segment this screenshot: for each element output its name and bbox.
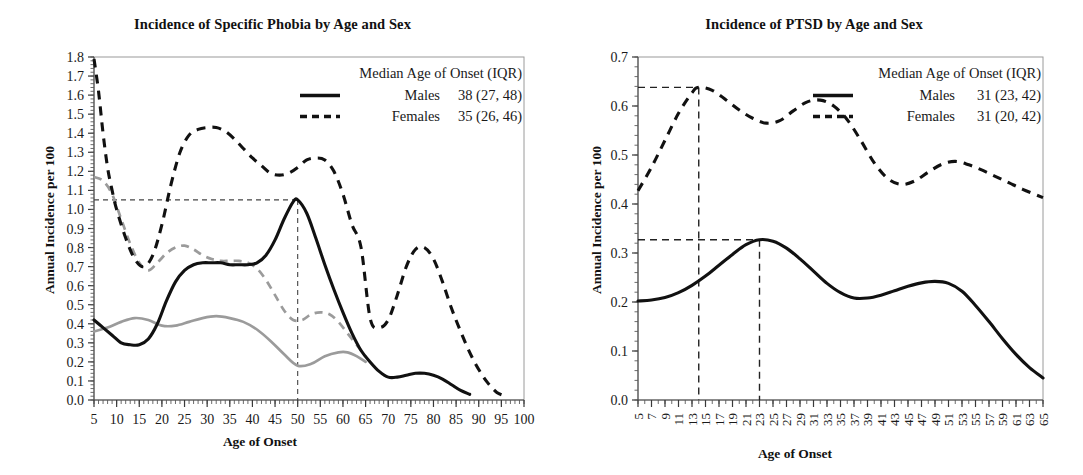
legend-label-males: Males	[920, 87, 956, 103]
x-tick-label: 50	[291, 412, 305, 427]
y-tick-label: 1.0	[67, 202, 85, 217]
y-tick-label: 1.5	[67, 107, 85, 122]
series-line-females	[94, 59, 506, 396]
legend-title: Median Age of Onset (IQR)	[878, 65, 1041, 82]
x-tick-label: 30	[200, 412, 214, 427]
y-tick-label: 0.1	[67, 374, 85, 389]
y-tick-label: 0.4	[611, 197, 629, 212]
x-tick-label: 85	[449, 412, 463, 427]
x-tick-label: 15	[132, 412, 146, 427]
y-tick-label: 0.8	[67, 241, 85, 256]
legend-value-males: 38 (27, 48)	[458, 87, 522, 104]
y-tick-label: 0.2	[611, 295, 629, 310]
y-tick-label: 1.2	[67, 164, 85, 179]
chart-panel-ptsd: Incidence of PTSD by Age and Sex Annual …	[545, 0, 1083, 475]
y-tick-label: 1.8	[67, 50, 85, 65]
y-tick-label: 0.6	[67, 279, 85, 294]
x-tick-label: 95	[494, 412, 508, 427]
y-tick-label: 1.3	[67, 145, 85, 160]
x-tick-label: 10	[110, 412, 124, 427]
x-tick-label: 25	[178, 412, 192, 427]
x-tick-group: 5101520253035404550556065707580859095100	[91, 400, 535, 427]
y-tick-label: 1.7	[67, 69, 85, 84]
y-tick-group: 0.00.10.20.30.40.50.60.70.80.91.01.11.21…	[67, 50, 95, 408]
x-tick-label: 55	[313, 412, 327, 427]
y-tick-label: 0.0	[611, 393, 629, 408]
legend-label-males: Males	[405, 87, 441, 103]
legend-value-males: 31 (23, 42)	[977, 87, 1041, 104]
y-tick-label: 0.3	[67, 336, 85, 351]
x-tick-label: 65	[1036, 413, 1051, 426]
x-tick-label: 40	[245, 412, 259, 427]
legend-value-females: 31 (20, 42)	[977, 108, 1041, 125]
y-tick-label: 0.7	[611, 50, 629, 65]
series-line-males-secondary	[94, 316, 366, 366]
x-tick-label: 100	[514, 412, 535, 427]
y-tick-label: 0.5	[67, 298, 85, 313]
y-tick-label: 0.2	[67, 355, 85, 370]
y-tick-label: 0.9	[67, 222, 85, 237]
x-tick-label: 80	[426, 412, 440, 427]
y-tick-label: 1.4	[67, 126, 85, 141]
x-tick-label: 75	[404, 412, 418, 427]
chart-panel-specific-phobia: Incidence of Specific Phobia by Age and …	[0, 0, 545, 475]
x-tick-label: 35	[223, 412, 237, 427]
chart-svg-ptsd: 0.00.10.20.30.40.50.60.75791113151719212…	[545, 0, 1083, 475]
y-tick-label: 0.5	[611, 148, 629, 163]
x-tick-label: 20	[155, 412, 169, 427]
y-tick-label: 0.0	[67, 393, 85, 408]
x-tick-label: 70	[381, 412, 395, 427]
legend-value-females: 35 (26, 46)	[458, 108, 522, 125]
y-tick-label: 0.3	[611, 246, 629, 261]
y-tick-label: 0.6	[611, 99, 629, 114]
legend-label-females: Females	[907, 108, 956, 124]
x-tick-group: 5791113151719212325272931333537394143454…	[631, 400, 1051, 426]
figure-container: Incidence of Specific Phobia by Age and …	[0, 0, 1083, 475]
reference-line-group	[638, 87, 760, 400]
x-tick-label: 90	[472, 412, 486, 427]
legend-label-females: Females	[392, 108, 441, 124]
chart-svg-specific-phobia: 0.00.10.20.30.40.50.60.70.80.91.01.11.21…	[0, 0, 545, 475]
y-tick-label: 0.1	[611, 344, 629, 359]
legend: Median Age of Onset (IQR)Males38 (27, 48…	[300, 65, 522, 125]
series-line-males	[94, 199, 470, 394]
y-tick-label: 1.6	[67, 88, 85, 103]
y-tick-group: 0.00.10.20.30.40.50.60.7	[611, 50, 639, 408]
x-tick-label: 65	[359, 412, 373, 427]
legend-title: Median Age of Onset (IQR)	[359, 65, 522, 82]
y-tick-label: 1.1	[67, 183, 85, 198]
x-tick-label: 60	[336, 412, 350, 427]
x-tick-label: 45	[268, 412, 282, 427]
y-tick-label: 0.4	[67, 317, 85, 332]
y-tick-label: 0.7	[67, 260, 85, 275]
x-tick-label: 5	[91, 412, 98, 427]
legend: Median Age of Onset (IQR)Males31 (23, 42…	[813, 65, 1041, 125]
